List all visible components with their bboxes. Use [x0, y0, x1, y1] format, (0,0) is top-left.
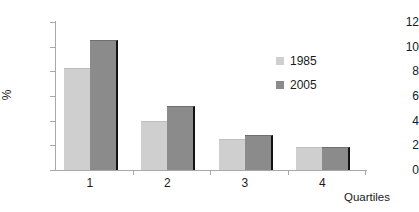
legend: 1985 2005 [276, 53, 317, 101]
bar-group [219, 22, 271, 170]
bar-2005-q2 [167, 106, 195, 170]
x-tick [365, 170, 366, 175]
legend-swatch-icon-2005 [276, 81, 284, 89]
y-tick-label: 8 [373, 65, 419, 77]
x-axis-title: Quartiles [344, 191, 390, 203]
y-tick-label: 12 [373, 16, 419, 28]
y-tick-label: 2 [373, 139, 419, 151]
x-tick-label: 2 [129, 177, 205, 189]
x-axis-line [55, 170, 367, 171]
bars-area [55, 22, 365, 170]
x-tick [210, 170, 211, 175]
x-tick-label: 1 [52, 177, 128, 189]
y-axis-title: % [4, 84, 24, 108]
bar-1985-q3 [219, 139, 245, 170]
x-tick [288, 170, 289, 175]
y-tick-label: 0 [373, 164, 419, 176]
x-tick-label: 3 [207, 177, 283, 189]
bar-2005-q1 [90, 40, 118, 171]
y-tick-label: 4 [373, 115, 419, 127]
bar-1985-q4 [296, 147, 322, 170]
bar-1985-q1 [64, 68, 90, 170]
legend-swatch-icon-1985 [276, 57, 284, 65]
legend-label-1985: 1985 [290, 55, 317, 67]
x-tick-label: 4 [284, 177, 360, 189]
legend-item-2005: 2005 [276, 77, 317, 93]
y-tick-label: 10 [373, 41, 419, 53]
bar-2005-q4 [322, 147, 350, 170]
bar-2005-q3 [245, 135, 273, 170]
legend-item-1985: 1985 [276, 53, 317, 69]
bar-group [141, 22, 193, 170]
bar-chart: % 024681012 1234 Quartiles 1985 2005 [0, 0, 419, 212]
y-axis-title-text: % [0, 90, 14, 101]
legend-label-2005: 2005 [290, 79, 317, 91]
y-tick [50, 170, 55, 171]
x-tick [133, 170, 134, 175]
bar-group [64, 22, 116, 170]
bar-1985-q2 [141, 121, 167, 170]
y-tick-label: 6 [373, 90, 419, 102]
